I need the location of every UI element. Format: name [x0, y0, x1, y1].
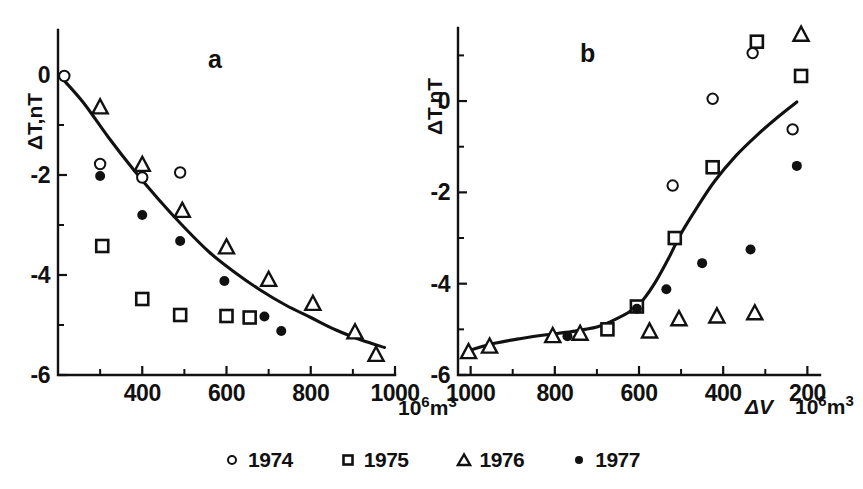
data-point-1977: [562, 331, 572, 341]
open-circle-icon: [223, 451, 241, 469]
a-y-tick-label: -6: [31, 362, 50, 388]
data-point-1976: [347, 324, 362, 338]
data-point-1975: [707, 161, 719, 173]
b-x-tick-label: 600: [621, 380, 658, 406]
filled-circle-glyph: [575, 456, 583, 464]
data-point-1976: [461, 344, 476, 358]
panel-a-fit-curve: [61, 78, 384, 348]
panel-b-data-points: [461, 27, 809, 359]
panel-a-tick-labels: 40060080010000-2-4-6: [31, 62, 420, 406]
data-point-1976: [573, 326, 588, 340]
legend-item-1975: 1975: [339, 448, 409, 472]
data-point-1975: [601, 323, 613, 335]
a-x-tick-label: 400: [124, 380, 161, 406]
data-point-1976: [135, 157, 150, 171]
data-point-1976: [671, 311, 686, 325]
data-point-1975: [795, 70, 807, 82]
open-square-glyph: [343, 455, 352, 464]
panel-a-y-axis-title: ΔT,nT: [23, 93, 46, 150]
b-axis-lines: [458, 28, 820, 375]
panel-b-letter: b: [580, 39, 595, 67]
panel-b-tick-labels: 10008006004002000-2-4-6: [431, 88, 826, 406]
data-point-1974: [667, 180, 677, 190]
data-point-1975: [751, 36, 763, 48]
data-point-1976: [794, 27, 809, 41]
data-point-1974: [59, 71, 69, 81]
panel-b-axes: [458, 28, 820, 375]
b-x-tick-label: 800: [536, 380, 573, 406]
data-point-1974: [175, 167, 185, 177]
a-x-tick-label: 600: [208, 380, 245, 406]
legend-label: 1977: [595, 448, 640, 472]
panel-a-letter: a: [208, 45, 223, 73]
legend: 1974197519761977: [0, 430, 863, 489]
data-point-1974: [787, 124, 797, 134]
data-point-1974: [747, 48, 757, 58]
data-point-1975: [244, 312, 256, 324]
filled-circle-icon: [570, 451, 588, 469]
data-point-1977: [661, 284, 671, 294]
data-point-1975: [174, 309, 186, 321]
b-y-tick-label: -6: [431, 362, 450, 388]
data-point-1977: [137, 210, 147, 220]
data-point-1977: [259, 312, 269, 322]
open-square-icon: [339, 451, 357, 469]
legend-label: 1975: [364, 448, 409, 472]
panel-b-x-axis-units: 106m3: [795, 392, 854, 419]
data-point-1977: [175, 236, 185, 246]
data-point-1976: [369, 347, 384, 361]
data-point-1977: [219, 276, 229, 286]
b-y-tick-label: -4: [431, 271, 451, 297]
figure-root: 40060080010000-2-4-6 ΔT,nT a 106m3 10008…: [0, 0, 863, 489]
data-point-1974: [137, 172, 147, 182]
open-triangle-icon: [455, 451, 473, 469]
data-point-1975: [669, 232, 681, 244]
legend-item-1976: 1976: [455, 448, 525, 472]
data-point-1977: [792, 161, 802, 171]
data-point-1977: [697, 258, 707, 268]
legend-item-1974: 1974: [223, 448, 293, 472]
data-point-1975: [96, 240, 108, 252]
data-point-1975: [136, 293, 148, 305]
panel-a-data-points: [59, 71, 383, 361]
legend-label: 1976: [480, 448, 525, 472]
a-y-tick-label: 0: [38, 62, 50, 88]
data-point-1976: [261, 272, 276, 286]
legend-label: 1974: [248, 448, 293, 472]
data-point-1977: [276, 326, 286, 336]
a-trend-curve: [61, 78, 384, 348]
data-point-1974: [95, 159, 105, 169]
b-x-tick-label: 1000: [446, 380, 495, 406]
chart-panel-a: 40060080010000-2-4-6 ΔT,nT a 106m3: [0, 0, 440, 430]
chart-panel-b: 10008006004002000-2-4-6 ΔT,nT b ΔV 106m3: [420, 0, 863, 430]
data-point-1975: [221, 310, 233, 322]
panel-a-canvas: 40060080010000-2-4-6 ΔT,nT a 106m3: [0, 0, 440, 430]
data-point-1976: [642, 323, 657, 337]
open-circle-glyph: [228, 456, 236, 464]
panel-b-x-axis-variable: ΔV: [744, 395, 775, 418]
data-point-1976: [93, 99, 108, 113]
data-point-1974: [707, 94, 717, 104]
data-point-1977: [746, 244, 756, 254]
open-triangle-glyph: [457, 454, 469, 465]
a-x-tick-label: 800: [292, 380, 329, 406]
panel-b-y-axis-title: ΔT,nT: [423, 78, 446, 135]
legend-item-1977: 1977: [570, 448, 640, 472]
b-x-tick-label: 400: [705, 380, 742, 406]
b-y-tick-label: -2: [431, 179, 450, 205]
data-point-1977: [95, 171, 105, 181]
data-point-1976: [305, 296, 320, 310]
data-point-1977: [632, 304, 642, 314]
a-y-tick-label: -4: [31, 262, 51, 288]
data-point-1976: [175, 203, 190, 217]
data-point-1976: [709, 308, 724, 322]
data-point-1976: [219, 239, 234, 253]
a-y-tick-label: -2: [31, 162, 50, 188]
panel-b-canvas: 10008006004002000-2-4-6 ΔT,nT b ΔV 106m3: [420, 0, 863, 430]
data-point-1976: [747, 305, 762, 319]
